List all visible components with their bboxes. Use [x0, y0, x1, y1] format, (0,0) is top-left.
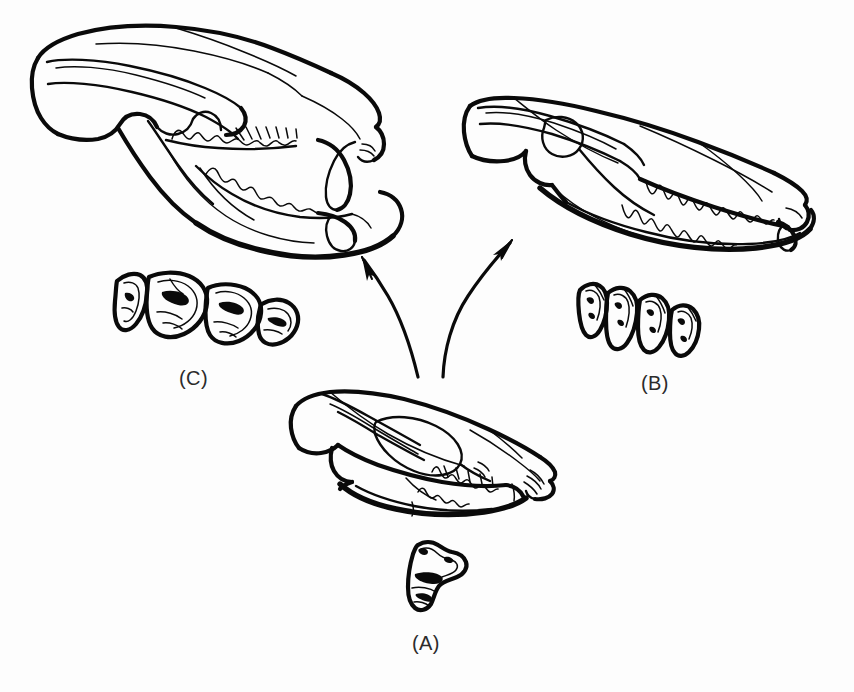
skull-c-drawing [32, 26, 402, 257]
tooth-a-drawing [408, 542, 467, 610]
tooth-row-c-drawing [115, 273, 299, 345]
arrow-a-to-b [443, 240, 512, 377]
skull-a-drawing [291, 391, 556, 516]
tooth-row-b-drawing [578, 284, 699, 356]
figure-illustration [0, 0, 854, 692]
arrow-a-to-c [362, 257, 418, 377]
skull-b-drawing [464, 98, 814, 251]
figure-plate: (A) (B) (C) [0, 0, 854, 692]
panel-label-a: (A) [412, 632, 440, 655]
panel-label-b: (B) [641, 372, 669, 395]
panel-label-c: (C) [179, 367, 208, 390]
